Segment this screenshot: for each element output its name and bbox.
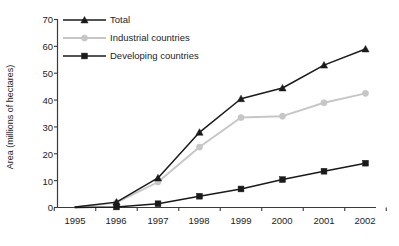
footer-cut-text-strip <box>0 238 399 246</box>
line-chart: Area (millions of hectares) 70 60 50 40 … <box>0 0 399 246</box>
plot-area <box>0 0 399 246</box>
